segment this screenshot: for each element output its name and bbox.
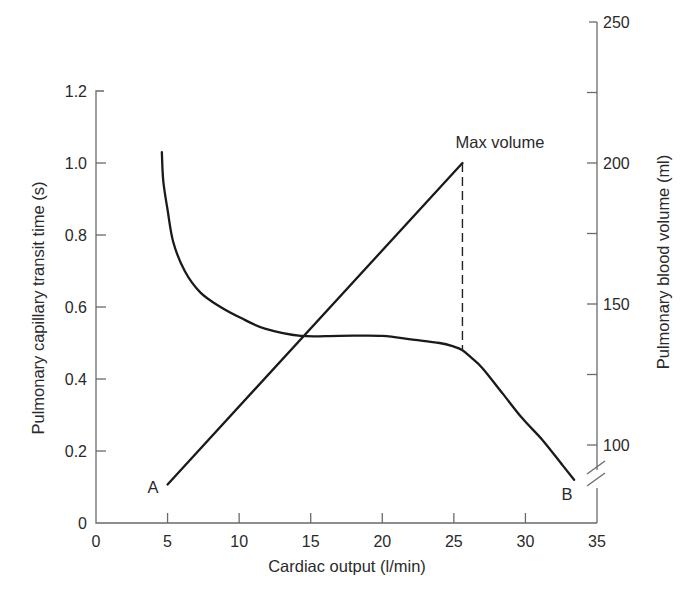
transit-time-curve bbox=[162, 152, 574, 480]
x-tick-label: 30 bbox=[517, 533, 535, 550]
x-tick-label: 15 bbox=[302, 533, 320, 550]
y-right-axis-title: Pulmonary blood volume (ml) bbox=[654, 155, 672, 370]
y-left-axis-title: Pulmonary capillary transit time (s) bbox=[29, 181, 47, 434]
y-left-tick-label: 0.2 bbox=[65, 443, 87, 460]
y-left-tick-label: 0.4 bbox=[65, 371, 87, 388]
x-axis-title: Cardiac output (l/min) bbox=[268, 557, 426, 575]
axes bbox=[96, 22, 605, 523]
max-volume-label: Max volume bbox=[456, 133, 545, 151]
blood-volume-line bbox=[168, 163, 463, 484]
point-a-label: A bbox=[147, 478, 158, 496]
x-tick-label: 25 bbox=[445, 533, 463, 550]
y-left-tick-label: 1.2 bbox=[65, 83, 87, 100]
y-right-tick-label: 200 bbox=[603, 155, 630, 172]
y-right-tick-label: 250 bbox=[603, 14, 630, 31]
series bbox=[162, 152, 574, 484]
x-tick-label: 5 bbox=[163, 533, 172, 550]
x-tick-label: 0 bbox=[92, 533, 101, 550]
axis-break-mark bbox=[587, 461, 605, 474]
y-left-tick-label: 0 bbox=[78, 515, 87, 532]
ticks: 0510152025303500.20.40.60.81.01.21001502… bbox=[65, 14, 630, 550]
y-left-tick-label: 0.8 bbox=[65, 227, 87, 244]
y-right-tick-label: 100 bbox=[603, 437, 630, 454]
x-tick-label: 10 bbox=[230, 533, 248, 550]
axis-break-mark bbox=[587, 473, 605, 486]
left-and-bottom-axis bbox=[96, 91, 597, 523]
chart: 0510152025303500.20.40.60.81.01.21001502… bbox=[0, 0, 699, 593]
point-b-label: B bbox=[561, 485, 572, 503]
y-left-tick-label: 0.6 bbox=[65, 299, 87, 316]
x-tick-label: 35 bbox=[588, 533, 606, 550]
y-right-tick-label: 150 bbox=[603, 296, 630, 313]
y-left-tick-label: 1.0 bbox=[65, 155, 87, 172]
x-tick-label: 20 bbox=[373, 533, 391, 550]
